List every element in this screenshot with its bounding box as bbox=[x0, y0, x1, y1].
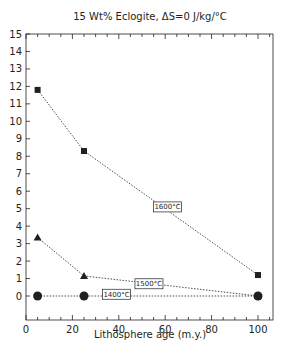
y-tick-label: 4 bbox=[16, 221, 22, 232]
y-tick-label: 7 bbox=[16, 168, 22, 179]
x-tick-label: 100 bbox=[248, 324, 267, 335]
series-layer: 1600°C1500°C1400°C bbox=[33, 87, 262, 301]
series-label: 1600°C bbox=[154, 203, 180, 211]
series-label: 1500°C bbox=[136, 280, 162, 288]
square-marker bbox=[35, 87, 41, 93]
x-axis: 020406080100 bbox=[23, 34, 270, 335]
y-tick-label: 2 bbox=[16, 256, 22, 267]
square-marker bbox=[81, 148, 87, 154]
circle-marker bbox=[254, 292, 263, 301]
series-circle: 1400°C bbox=[33, 289, 262, 300]
y-tick-label: 3 bbox=[16, 238, 22, 249]
y-tick-label: 0 bbox=[16, 291, 22, 302]
square-marker bbox=[255, 272, 261, 278]
y-tick-label: 13 bbox=[9, 63, 22, 74]
x-tick-label: 20 bbox=[66, 324, 79, 335]
series-triangle: 1500°C bbox=[34, 233, 262, 299]
y-axis: 0123456789101112131415 bbox=[9, 29, 30, 302]
triangle-marker bbox=[34, 233, 42, 240]
y-tick-label: 12 bbox=[9, 81, 22, 92]
plot-frame bbox=[26, 34, 273, 320]
series-label: 1400°C bbox=[103, 291, 129, 299]
y-tick-label: 1 bbox=[16, 273, 22, 284]
triangle-marker bbox=[80, 272, 88, 279]
y-tick-label: 15 bbox=[9, 29, 22, 40]
y-tick-label: 11 bbox=[9, 98, 22, 109]
y-tick-label: 10 bbox=[9, 116, 22, 127]
y-tick-label: 8 bbox=[16, 151, 22, 162]
chart: 15 Wt% Eclogite, ΔS=0 J/kg/°C 0123456789… bbox=[0, 0, 283, 343]
y-tick-label: 14 bbox=[9, 46, 22, 57]
y-tick-label: 9 bbox=[16, 133, 22, 144]
circle-marker bbox=[80, 292, 89, 301]
chart-title: 15 Wt% Eclogite, ΔS=0 J/kg/°C bbox=[73, 11, 227, 22]
y-tick-label: 6 bbox=[16, 186, 22, 197]
y-tick-label: 5 bbox=[16, 203, 22, 214]
x-axis-label: Lithosphere age (m.y.) bbox=[94, 329, 206, 340]
circle-marker bbox=[33, 292, 42, 301]
x-tick-label: 0 bbox=[23, 324, 29, 335]
x-tick-label: 80 bbox=[205, 324, 218, 335]
series-square: 1600°C bbox=[35, 87, 261, 278]
